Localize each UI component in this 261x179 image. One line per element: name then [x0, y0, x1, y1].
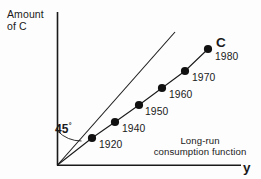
data-point-marker [204, 45, 212, 53]
consumption-function-figure: Amount of C y 45° C Long-run consumption… [0, 0, 261, 179]
x-axis-title: y [243, 160, 251, 175]
y-axis-title-line1: Amount [7, 9, 44, 21]
angle-value: 45 [55, 122, 69, 136]
point-label-1940: 1940 [122, 123, 145, 134]
function-caption: Long-run consumption function [148, 136, 252, 157]
data-point-marker [158, 84, 166, 92]
data-point-marker [88, 134, 96, 142]
angle-annotation: 45° [55, 122, 72, 136]
point-label-1970: 1970 [192, 72, 215, 83]
data-point-marker [135, 101, 143, 109]
data-point-marker [111, 118, 119, 126]
y-axis-title-line2: of C [7, 21, 44, 33]
curve-label-c: C [216, 35, 226, 50]
function-caption-line2: consumption function [148, 147, 252, 158]
point-label-1950: 1950 [145, 106, 168, 117]
point-label-1980: 1980 [215, 51, 238, 62]
degree-symbol-icon: ° [69, 122, 72, 129]
point-label-1920: 1920 [99, 139, 122, 150]
y-axis-title: Amount of C [7, 9, 44, 33]
data-point-marker [181, 67, 189, 75]
point-label-1960: 1960 [169, 89, 192, 100]
